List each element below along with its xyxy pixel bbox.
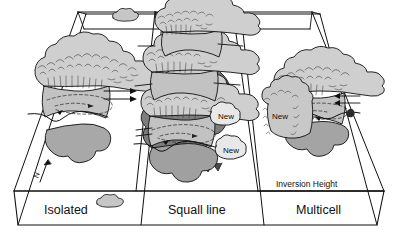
multicell-new-cell [262,75,313,138]
panel-label-multicell: Multicell [296,203,341,217]
new-label-squall-lower: New [223,146,239,155]
north-arrow [40,160,51,182]
inversion-height-label: Inversion Height [276,179,338,189]
isolated-precip-base [45,124,111,163]
north-arrow-head [44,160,51,165]
isolated-outflow-arrowhead-2 [130,96,137,102]
isolated-anvil [35,32,159,92]
panel-label-isolated: Isolated [44,203,88,217]
panel-label-squall-line: Squall line [168,203,226,217]
new-label-squall-upper: New [218,112,234,121]
multicell-dark-blob [346,109,355,117]
small-cloud-top-compartment [113,8,139,21]
storm-types-diagram: N Inversion Height New New New Isolated … [0,0,398,236]
multicell-storm-complex [262,46,384,156]
new-label-multicell: New [272,112,288,121]
squall-lower-precip-base [149,144,217,183]
diagram-canvas: N Inversion Height New New New Isolated … [0,0,398,236]
squall-upper-anvil [155,0,260,35]
